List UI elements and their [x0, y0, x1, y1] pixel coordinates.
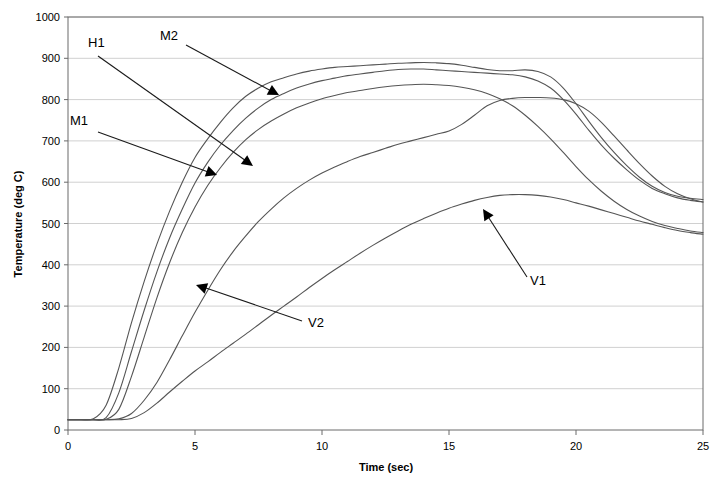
temperature-time-chart: 10009008007006005004003002001000 0510152…: [0, 0, 728, 494]
x-tick-label: 20: [570, 440, 582, 452]
series-label-m2: M2: [160, 28, 178, 43]
series-label-h1: H1: [88, 35, 105, 50]
series-label-v2: V2: [308, 315, 324, 330]
chart-canvas: 10009008007006005004003002001000 0510152…: [0, 0, 728, 494]
x-axis-title: Time (sec): [359, 461, 414, 473]
x-tick-label: 5: [192, 440, 198, 452]
y-tick-label: 800: [42, 94, 60, 106]
x-tick-label: 25: [697, 440, 709, 452]
y-tick-label: 1000: [36, 11, 60, 23]
y-tick-label: 400: [42, 259, 60, 271]
x-tick-label: 0: [65, 440, 71, 452]
series-label-v1: V1: [530, 273, 546, 288]
y-tick-label: 300: [42, 300, 60, 312]
x-tick-label: 10: [316, 440, 328, 452]
y-tick-label: 900: [42, 52, 60, 64]
y-tick-label: 500: [42, 218, 60, 230]
x-tick-label: 15: [443, 440, 455, 452]
y-tick-label: 700: [42, 135, 60, 147]
y-tick-label: 0: [54, 424, 60, 436]
y-axis-title: Temperature (deg C): [12, 170, 24, 277]
y-tick-label: 100: [42, 383, 60, 395]
y-tick-label: 200: [42, 341, 60, 353]
y-tick-label: 600: [42, 176, 60, 188]
series-label-m1: M1: [70, 113, 88, 128]
